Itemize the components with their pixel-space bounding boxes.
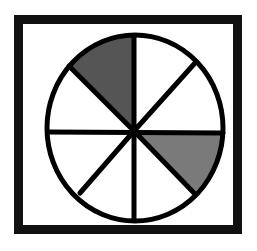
fraction-circle-diagram [0, 0, 257, 251]
